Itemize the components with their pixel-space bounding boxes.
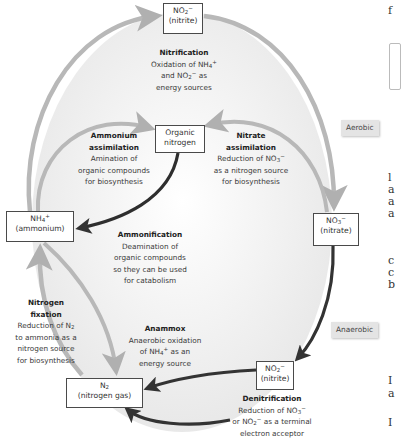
ammonium-assimilation-title1: Ammonium bbox=[66, 130, 162, 142]
nitrite-top-formula: NO2− bbox=[173, 6, 193, 15]
node-nitrate: NO3− (nitrate) bbox=[313, 213, 359, 246]
text-fragment: l bbox=[388, 172, 392, 183]
organic-nitrogen-line2: nitrogen bbox=[164, 138, 196, 147]
nitrate-assimilation-line1: Reduction of NO3− bbox=[203, 153, 299, 165]
nitrification-line3: energy sources bbox=[138, 82, 230, 94]
label-nitrogen-fixation: Nitrogen fixation Reduction of N2 to amm… bbox=[4, 297, 88, 367]
text-fragment: c bbox=[388, 267, 394, 278]
anammox-title: Anammox bbox=[117, 323, 213, 335]
anammox-line2: of NH4+ as an bbox=[117, 346, 213, 358]
ammonification-title: Ammonification bbox=[102, 229, 198, 241]
nitrite-top-name: (nitrite) bbox=[169, 16, 198, 25]
ammonification-line4: for catabolism bbox=[102, 275, 198, 287]
nitrate-assimilation-title1: Nitrate bbox=[203, 130, 299, 142]
nitrite-bottom-formula: NO2− bbox=[265, 364, 285, 373]
text-fragment: c bbox=[388, 255, 394, 266]
text-fragment: I bbox=[388, 375, 392, 386]
label-anammox: Anammox Anaerobic oxidation of NH4+ as a… bbox=[117, 323, 213, 369]
zone-label-anaerobic: Anaerobic bbox=[331, 322, 378, 338]
nitrate-formula: NO3− bbox=[326, 216, 346, 225]
ammonium-name: (ammonium) bbox=[15, 224, 64, 233]
label-ammonium-assimilation: Ammonium assimilation Amination of organ… bbox=[66, 130, 162, 188]
ammonium-assimilation-title2: assimilation bbox=[66, 142, 162, 154]
ammonification-line1: Deamination of bbox=[102, 241, 198, 253]
denitrification-line3: electron acceptor bbox=[220, 428, 324, 438]
text-fragment: b bbox=[388, 279, 395, 290]
node-nitrite-top: NO2− (nitrite) bbox=[163, 3, 203, 34]
anammox-line3: energy source bbox=[117, 358, 213, 370]
label-ammonification: Ammonification Deamination of organic co… bbox=[102, 229, 198, 287]
nitrate-assimilation-line2: as a nitrogen source bbox=[203, 165, 299, 177]
label-nitrate-assimilation: Nitrate assimilation Reduction of NO3− a… bbox=[203, 130, 299, 188]
nitrogen-fixation-line4: for biosynthesis bbox=[4, 355, 88, 367]
nitrite-bottom-name: (nitrite) bbox=[261, 374, 290, 383]
nitrification-line2: and NO2− as bbox=[138, 70, 230, 82]
text-fragment: I bbox=[388, 417, 392, 428]
nitrogen-gas-formula: N2 bbox=[100, 381, 109, 390]
denitrification-title: Denitrification bbox=[220, 393, 324, 405]
node-nitrite-bottom: NO2− (nitrite) bbox=[256, 361, 294, 390]
ammonium-assimilation-line3: for biosynthesis bbox=[66, 176, 162, 188]
text-fragment: a bbox=[388, 388, 395, 399]
text-fragment: f bbox=[388, 5, 392, 16]
nitrogen-fixation-line3: nitrogen source bbox=[4, 343, 88, 355]
nitrate-assimilation-title2: assimilation bbox=[203, 142, 299, 154]
text-fragment: a bbox=[388, 208, 395, 219]
denitrification-line1: Reduction of NO3− bbox=[220, 405, 324, 417]
nitrogen-fixation-line1: Reduction of N2 bbox=[4, 320, 88, 332]
nitrate-name: (nitrate) bbox=[320, 226, 351, 235]
nitrification-line1: Oxidation of NH4+ bbox=[138, 59, 230, 71]
text-fragment: a bbox=[388, 184, 395, 195]
ammonium-assimilation-line1: Amination of bbox=[66, 153, 162, 165]
cutoff-box-fragment bbox=[389, 43, 401, 90]
organic-nitrogen-line1: Organic bbox=[165, 128, 195, 137]
nitrogen-fixation-title1: Nitrogen bbox=[4, 297, 88, 309]
ammonification-line3: so they can be used bbox=[102, 264, 198, 276]
node-nitrogen-gas: N2 (nitrogen gas) bbox=[66, 378, 143, 408]
nitrogen-gas-name: (nitrogen gas) bbox=[78, 391, 132, 400]
nitrogen-fixation-title2: fixation bbox=[4, 309, 88, 321]
ammonification-line2: organic compounds bbox=[102, 252, 198, 264]
ammonium-formula: NH4+ bbox=[30, 214, 50, 223]
nitrogen-fixation-line2: to ammonia as a bbox=[4, 332, 88, 344]
node-organic-nitrogen: Organic nitrogen bbox=[155, 125, 205, 153]
zone-label-aerobic: Aerobic bbox=[341, 120, 379, 136]
nitrification-title: Nitrification bbox=[138, 47, 230, 59]
denitrification-line2: or NO2− as a terminal bbox=[220, 416, 324, 428]
ammonium-assimilation-line2: organic compounds bbox=[66, 165, 162, 177]
nitrate-assimilation-line3: for biosynthesis bbox=[203, 176, 299, 188]
text-fragment: a bbox=[388, 196, 395, 207]
label-denitrification: Denitrification Reduction of NO3− or NO2… bbox=[220, 393, 324, 438]
label-nitrification: Nitrification Oxidation of NH4+ and NO2−… bbox=[138, 47, 230, 93]
node-ammonium: NH4+ (ammonium) bbox=[6, 211, 74, 242]
anammox-line1: Anaerobic oxidation bbox=[117, 335, 213, 347]
